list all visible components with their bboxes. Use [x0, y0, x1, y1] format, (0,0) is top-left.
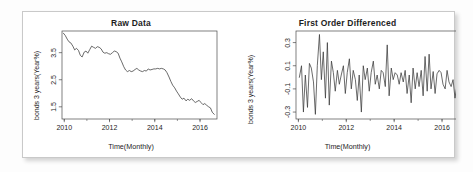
x-tick-label: 2010 [291, 124, 307, 131]
panel-raw-data: Raw Data bonds 3 years(Year%) Time(Month… [23, 12, 239, 159]
first-order-differenced-y-axis-label: bonds 3 years(Year%) [247, 55, 254, 124]
x-tick-label: 2014 [147, 124, 163, 131]
x-tick-label: 2012 [102, 124, 118, 131]
figure-root: Raw Data bonds 3 years(Year%) Time(Month… [0, 0, 473, 172]
y-tick-label: 1.5 [50, 102, 57, 112]
figure-frame: Raw Data bonds 3 years(Year%) Time(Month… [22, 11, 455, 158]
x-tick-label: 2016 [192, 124, 208, 131]
x-tick-label: 2014 [386, 124, 402, 131]
panel-first-order-differenced: First Order Differenced bonds 3 years(Ye… [239, 12, 456, 159]
y-tick-label: 0.3 [284, 38, 291, 48]
raw-data-y-axis-label: bonds 3 years(Year%) [33, 51, 40, 120]
first-order-differenced-plot [239, 12, 456, 159]
raw-data-plot [23, 12, 239, 159]
x-tick-label: 2010 [56, 124, 72, 131]
y-tick-label: 2.5 [50, 75, 57, 85]
y-tick-label: 0.1 [284, 61, 291, 71]
y-tick-label: 3.5 [50, 48, 57, 58]
x-tick-label: 2012 [338, 124, 354, 131]
y-tick-label: -0.1 [284, 83, 291, 95]
x-tick-label: 2016 [434, 124, 450, 131]
first-order-differenced-x-axis-label: Time(Monthly) [239, 142, 456, 151]
y-tick-label: -0.3 [284, 106, 291, 118]
raw-data-x-axis-label: Time(Monthly) [23, 142, 239, 151]
